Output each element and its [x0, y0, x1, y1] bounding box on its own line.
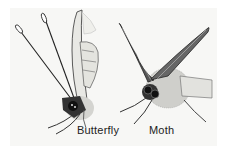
moth-label: Moth [149, 124, 174, 136]
butterfly-illustration [14, 10, 98, 134]
butterfly-label: Butterfly [77, 124, 119, 136]
moth-illustration [119, 23, 212, 124]
